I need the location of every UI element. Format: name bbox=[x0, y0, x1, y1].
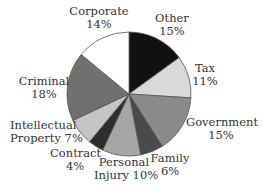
label-other: Other 15% bbox=[152, 12, 192, 38]
label-government: Government 15% bbox=[186, 116, 256, 142]
label-family: Family 6% bbox=[150, 152, 190, 178]
label-contract: Contract 4% bbox=[50, 147, 100, 173]
label-personal-injury: Personal Injury 10% bbox=[94, 156, 154, 182]
label-tax: Tax 11% bbox=[190, 62, 220, 88]
label-corporate: Corporate 14% bbox=[64, 5, 134, 31]
label-criminal: Criminal 18% bbox=[17, 75, 71, 101]
label-intellectual-property: Intellectual Property 7% bbox=[10, 119, 76, 145]
